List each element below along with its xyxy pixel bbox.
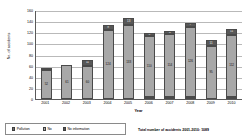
x-tick-label: 2001 xyxy=(40,101,51,106)
legend-swatch-no-information-icon xyxy=(63,127,66,130)
legend-item[interactable]: Pollution xyxy=(12,127,30,131)
bar-segment-value: 13 xyxy=(127,20,130,23)
chart-figure: No. of accidents 160 140 120 100 80 60 4… xyxy=(0,0,247,140)
bar-segment-pollution: 2 xyxy=(164,97,175,99)
bar-segment-value: 2 xyxy=(169,97,171,99)
bar-segment-value: 61 xyxy=(65,81,68,84)
bar-segment-value: 60 xyxy=(86,81,89,84)
bar-segment-value: 124 xyxy=(106,63,111,66)
bar-segment-no: 95 xyxy=(206,46,217,99)
bar-segment-value: 11 xyxy=(230,30,233,33)
x-tick-label: 2008 xyxy=(185,101,196,106)
bar-segment-value: 114 xyxy=(167,64,172,67)
y-axis-tick-labels: 160 140 120 100 80 60 40 20 0 xyxy=(19,0,33,118)
y-tick-label: 60 xyxy=(19,65,33,69)
x-tick-label: 2005 xyxy=(123,101,134,106)
y-tick-label: 20 xyxy=(19,87,33,91)
legend-swatch-no-icon xyxy=(43,127,46,130)
plot-area: 4526111609124131335110241142712631195111… xyxy=(35,11,242,100)
bar-segment-no: 126 xyxy=(185,27,196,97)
bar-column: 41142 xyxy=(164,11,175,99)
bar-column: 9124 xyxy=(103,11,114,99)
x-tick-label: 2002 xyxy=(61,101,72,106)
bar-segment-value: 11 xyxy=(86,61,89,64)
y-tick-label: 80 xyxy=(19,54,33,58)
legend-swatch-pollution-icon xyxy=(12,127,15,130)
bar-segment-value: 9 xyxy=(107,26,109,29)
bar-segment-pollution: 3 xyxy=(185,97,196,99)
bar-segment-no: 114 xyxy=(164,34,175,97)
legend-item[interactable]: No information xyxy=(63,127,90,131)
y-tick-label: 100 xyxy=(19,42,33,46)
x-axis-title: Year xyxy=(35,109,242,113)
bar-segment-no: 112 xyxy=(226,35,237,97)
bar-segment-no-information: 13 xyxy=(123,18,134,25)
bar-column: 51102 xyxy=(144,11,155,99)
bar-segment-no: 60 xyxy=(82,66,93,99)
x-tick-label: 2006 xyxy=(143,101,154,106)
x-tick-label: 2010 xyxy=(226,101,237,106)
x-tick-label: 2007 xyxy=(164,101,175,106)
bar-segment-value: 3 xyxy=(190,97,192,99)
legend-item-label: No xyxy=(47,127,51,131)
legend-item[interactable]: No xyxy=(43,127,52,131)
y-tick-label: 140 xyxy=(19,20,33,24)
chart-legend: PollutionNoNo information xyxy=(5,123,126,135)
bar-column: 452 xyxy=(41,11,52,99)
bar-group: 4526111609124131335110241142712631195111… xyxy=(36,11,242,99)
bar-segment-pollution: 2 xyxy=(144,97,155,99)
bar-segment-no: 61 xyxy=(61,65,72,99)
bar-segment-value: 133 xyxy=(126,61,131,64)
y-tick-label: 40 xyxy=(19,76,33,80)
legend-item-label: Pollution xyxy=(17,127,30,131)
x-tick-label: 2009 xyxy=(205,101,216,106)
legend-item-label: No information xyxy=(67,127,89,131)
bar-column: 1160 xyxy=(82,11,93,99)
bar-segment-value: 2 xyxy=(231,97,233,99)
total-accidents-note: Total number of accidents 2001-2010: 108… xyxy=(138,128,209,132)
x-tick-label: 2004 xyxy=(102,101,113,106)
bar-column: 71263 xyxy=(185,11,196,99)
bar-column: 61 xyxy=(61,11,72,99)
bar-column: 1195 xyxy=(206,11,217,99)
bar-segment-no: 52 xyxy=(41,70,52,99)
bar-segment-value: 126 xyxy=(188,60,193,63)
bar-column: 111122 xyxy=(226,11,237,99)
bar-segment-value: 110 xyxy=(147,65,152,68)
bar-column: 13133 xyxy=(123,11,134,99)
plot-wrapper: No. of accidents 160 140 120 100 80 60 4… xyxy=(0,0,247,118)
y-tick-label: 120 xyxy=(19,31,33,35)
bar-segment-value: 52 xyxy=(45,83,48,86)
bar-segment-no: 124 xyxy=(103,30,114,99)
bar-segment-value: 95 xyxy=(209,71,212,74)
bar-segment-value: 11 xyxy=(209,42,212,45)
bar-segment-pollution: 2 xyxy=(226,97,237,99)
bar-segment-no: 110 xyxy=(144,36,155,97)
bar-segment-value: 112 xyxy=(229,64,234,67)
y-axis-title: No. of accidents xyxy=(7,18,11,74)
x-tick-label: 2003 xyxy=(81,101,92,106)
y-tick-label: 0 xyxy=(19,98,33,102)
bar-segment-value: 2 xyxy=(148,97,150,99)
y-tick-label: 160 xyxy=(19,9,33,13)
bar-segment-no: 133 xyxy=(123,25,134,99)
